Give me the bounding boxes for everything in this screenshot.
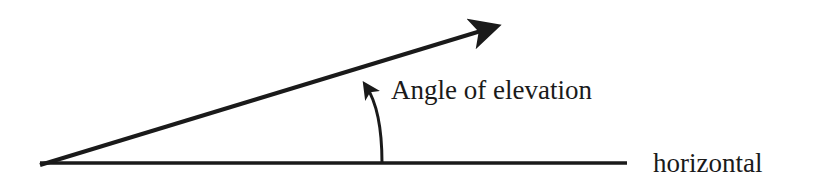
horizontal-label: horizontal	[653, 148, 762, 178]
angle-arc-arrow	[366, 86, 382, 163]
elevation-diagram: Angle of elevation horizontal	[0, 0, 818, 184]
angle-of-elevation-label: Angle of elevation	[391, 75, 592, 105]
